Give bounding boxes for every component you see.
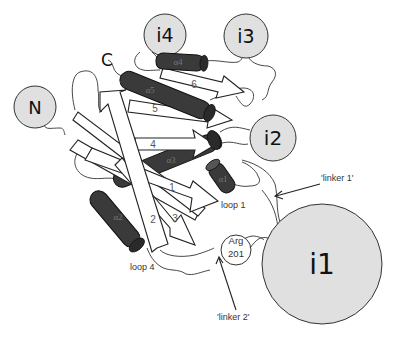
arg201-label-line2: 201	[228, 248, 244, 259]
linker-2-label: 'linker 2'	[217, 312, 250, 322]
label-i1: i1	[309, 248, 335, 281]
loop-n-terminus	[44, 125, 65, 135]
label-helix-a1: α1	[218, 174, 227, 184]
arg201-label-line1: Arg	[229, 235, 244, 246]
label-helix-a2: α2	[113, 212, 122, 222]
label-strand-1: 1	[169, 182, 175, 193]
loop-4-label: loop 4	[130, 262, 155, 272]
label-helix-a5: α5	[145, 85, 155, 95]
linker-1-arrow	[275, 184, 320, 199]
label-i4: i4	[156, 24, 173, 46]
label-i2: i2	[264, 126, 282, 150]
label-strand-3: 3	[172, 213, 178, 224]
loop-i3-b	[248, 56, 275, 100]
label-helix-a4: α4	[173, 57, 183, 67]
loop-4	[147, 248, 210, 275]
loop-top-left	[72, 71, 102, 112]
label-strand-2: 2	[150, 214, 156, 225]
label-strand-5: 5	[152, 103, 158, 114]
loop-bottom	[160, 248, 214, 256]
label-i3: i3	[237, 25, 254, 47]
loop-i2	[220, 127, 250, 144]
label-strand-4: 4	[150, 139, 156, 150]
loop-1-label: loop 1	[221, 200, 246, 210]
label-strand-6: 6	[191, 79, 197, 90]
label-c-terminus: C	[101, 50, 113, 70]
linker-1-label: 'linker 1'	[321, 173, 354, 183]
label-helix-a3: α3	[166, 155, 176, 165]
label-n-terminus: N	[28, 97, 41, 118]
protein-topology-diagram: i1 i2 i3 i4 N C	[0, 0, 398, 338]
